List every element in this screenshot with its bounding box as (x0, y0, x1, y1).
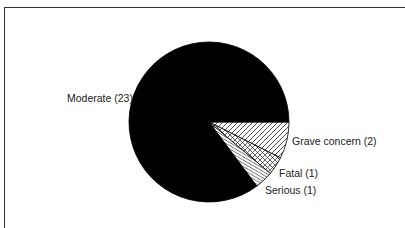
label-serious: Serious (1) (265, 184, 316, 196)
label-fatal: Fatal (1) (279, 167, 318, 179)
pie-chart: Moderate (23) Grave concern (2) Fatal (1… (0, 0, 405, 228)
pie-slices (129, 42, 289, 202)
label-moderate: Moderate (23) (67, 92, 133, 104)
label-grave-concern: Grave concern (2) (292, 135, 377, 147)
